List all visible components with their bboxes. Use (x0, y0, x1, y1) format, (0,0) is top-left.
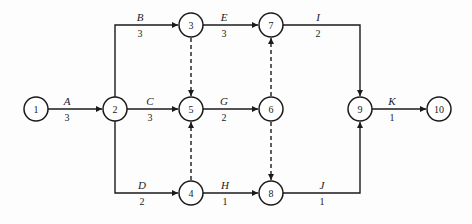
svg-text:1: 1 (223, 196, 228, 207)
diagram-svg: A 3 B 3 C 3 D 2 E 3 G 2 H 1 I 2 J 1 K 1 … (0, 0, 472, 224)
network-diagram: A 3 B 3 C 3 D 2 E 3 G 2 H 1 I 2 J 1 K 1 … (0, 0, 472, 224)
svg-text:9: 9 (358, 104, 363, 115)
arrow-B (115, 25, 178, 97)
svg-text:6: 6 (269, 104, 274, 115)
svg-text:K: K (387, 95, 396, 107)
svg-text:10: 10 (434, 104, 444, 115)
node-5: 5 (179, 97, 203, 121)
svg-text:3: 3 (138, 28, 143, 39)
svg-text:C: C (146, 95, 154, 107)
svg-text:3: 3 (189, 20, 194, 31)
svg-text:1: 1 (34, 104, 39, 115)
svg-text:7: 7 (269, 20, 274, 31)
svg-text:J: J (320, 179, 326, 191)
svg-text:3: 3 (65, 112, 70, 123)
svg-text:3: 3 (148, 112, 153, 123)
node-9: 9 (348, 97, 372, 121)
node-10: 10 (427, 97, 451, 121)
svg-text:5: 5 (189, 104, 194, 115)
node-8: 8 (259, 181, 283, 205)
svg-text:1: 1 (390, 112, 395, 123)
svg-text:I: I (315, 11, 321, 23)
svg-text:3: 3 (222, 28, 227, 39)
svg-text:H: H (220, 179, 230, 191)
node-4: 4 (179, 181, 203, 205)
svg-text:4: 4 (189, 188, 194, 199)
svg-text:8: 8 (269, 188, 274, 199)
svg-text:2: 2 (140, 196, 145, 207)
svg-text:2: 2 (316, 28, 321, 39)
arrow-I (283, 25, 360, 96)
arrow-D (115, 121, 178, 193)
svg-text:D: D (137, 179, 146, 191)
node-3: 3 (179, 13, 203, 37)
svg-text:A: A (63, 95, 71, 107)
node-6: 6 (259, 97, 283, 121)
svg-text:2: 2 (222, 112, 227, 123)
svg-text:G: G (220, 95, 228, 107)
node-2: 2 (103, 97, 127, 121)
svg-text:B: B (137, 11, 144, 23)
svg-text:1: 1 (320, 196, 325, 207)
node-1: 1 (24, 97, 48, 121)
svg-text:E: E (220, 11, 228, 23)
node-7: 7 (259, 13, 283, 37)
svg-text:2: 2 (113, 104, 118, 115)
